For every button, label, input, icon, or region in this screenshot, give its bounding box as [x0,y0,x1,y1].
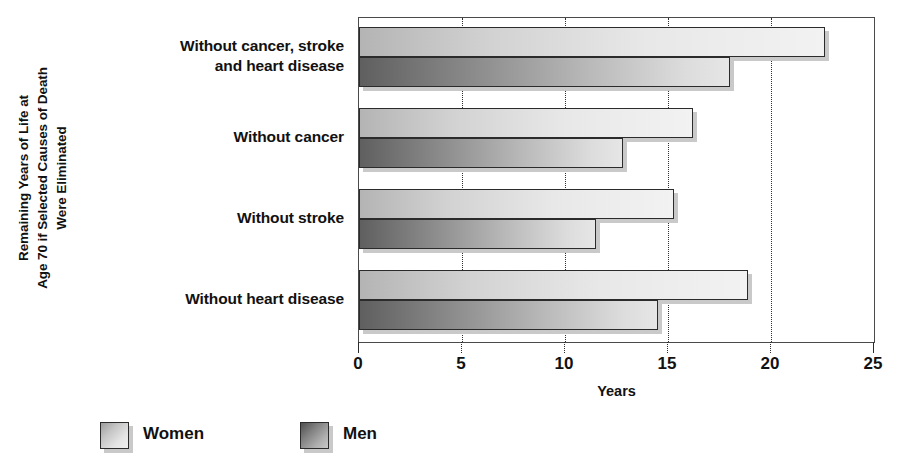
y-axis-title-line: Remaining Years of Life at [14,8,33,348]
chart-figure: Remaining Years of Life atAge 70 if Sele… [0,0,901,474]
category-label: Without cancer, strokeand heart disease [70,36,344,76]
category-label: Without stroke [70,208,344,228]
y-axis-title-container: Remaining Years of Life atAge 70 if Sele… [0,0,66,360]
plot-inner [359,18,874,342]
bar-men-0 [359,57,730,87]
bar-women-1 [359,108,693,138]
category-label-line: Without heart disease [70,289,344,309]
x-axis-tick [667,342,668,353]
category-label-line: Without cancer, stroke [70,36,344,56]
category-label: Without cancer [70,127,344,147]
bar-women-3 [359,270,748,300]
x-axis-tick-label: 25 [851,354,895,374]
bar-men-1 [359,138,623,168]
legend-swatch-men [300,422,329,449]
x-gridline [771,18,772,342]
bar-men-3 [359,300,658,330]
x-axis-tick [873,342,874,353]
x-axis-tick [770,342,771,353]
bar-women-2 [359,189,674,219]
legend-label: Women [143,424,204,444]
x-axis-tick [358,342,359,353]
legend-label: Men [343,424,377,444]
x-axis-tick-label: 10 [542,354,586,374]
x-axis-title: Years [358,383,875,399]
category-label-line: Without cancer [70,127,344,147]
category-label-line: and heart disease [70,56,344,76]
bar-men-2 [359,219,596,249]
x-axis-tick-label: 20 [748,354,792,374]
x-axis-tick-label: 0 [336,354,380,374]
bar-women-0 [359,27,825,57]
category-label-line: Without stroke [70,208,344,228]
y-axis-title-line: Age 70 if Selected Causes of Death [33,8,52,348]
plot-area [358,17,875,343]
y-axis-title: Remaining Years of Life atAge 70 if Sele… [14,8,71,348]
x-axis-tick-marks [358,342,875,354]
category-label-list: Without cancer, strokeand heart diseaseW… [70,17,352,341]
x-axis-tick-labels: 0510152025 [358,354,875,378]
x-axis-tick-label: 5 [439,354,483,374]
category-label: Without heart disease [70,289,344,309]
x-axis-tick-label: 15 [645,354,689,374]
y-axis-title-line: Were Eliminated [52,8,71,348]
x-axis-tick [461,342,462,353]
x-axis-tick [564,342,565,353]
legend-swatch-women [100,422,129,449]
